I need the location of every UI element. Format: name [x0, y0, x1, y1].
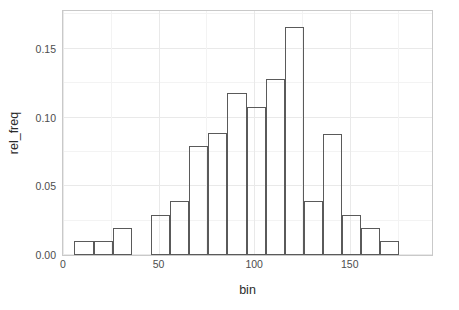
bar — [266, 79, 285, 255]
x-tick-label: 100 — [245, 258, 263, 270]
x-tick-label: 0 — [60, 258, 66, 270]
bar — [285, 27, 304, 255]
y-tick-label: 0.05 — [2, 181, 56, 191]
x-axis-ticks: 050100150 — [62, 258, 433, 276]
bar — [247, 107, 266, 255]
y-axis-ticks: 0.000.050.100.15 — [0, 10, 56, 256]
bar — [342, 215, 361, 255]
x-tick-label: 150 — [341, 258, 359, 270]
bar — [94, 241, 113, 255]
y-gridline-minor — [63, 82, 432, 83]
bar — [227, 93, 246, 255]
y-tick-label: 0.10 — [2, 113, 56, 123]
y-tick-label: 0.00 — [2, 250, 56, 260]
bar — [323, 134, 342, 255]
bar — [189, 146, 208, 255]
x-tick-label: 50 — [153, 258, 165, 270]
x-gridline-minor — [398, 11, 399, 255]
bar — [170, 201, 189, 255]
bar — [74, 241, 93, 255]
x-axis-label: bin — [62, 283, 433, 297]
bar — [151, 215, 170, 255]
plot-panel — [62, 10, 433, 256]
histogram-chart: rel_freq 0.000.050.100.15 050100150 bin — [0, 0, 459, 310]
x-gridline-major — [63, 11, 64, 255]
bar — [304, 201, 323, 255]
y-gridline-major — [63, 48, 432, 49]
x-gridline-minor — [111, 11, 112, 255]
bar — [361, 228, 380, 255]
bar — [380, 241, 399, 255]
bar — [208, 133, 227, 255]
y-tick-label: 0.15 — [2, 44, 56, 54]
bar — [113, 228, 132, 255]
y-gridline-minor — [63, 13, 432, 14]
